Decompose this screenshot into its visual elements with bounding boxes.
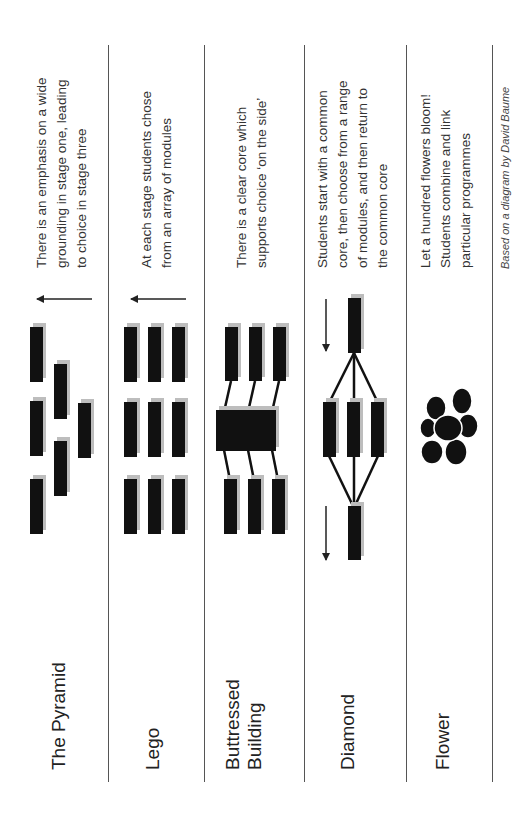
module-block bbox=[225, 327, 238, 381]
module-block bbox=[323, 402, 336, 457]
flower-icon bbox=[420, 388, 478, 465]
module-block bbox=[348, 298, 361, 353]
module-block bbox=[224, 479, 237, 534]
module-block bbox=[348, 506, 361, 560]
module-block bbox=[347, 402, 360, 457]
module-block bbox=[249, 327, 262, 381]
core-block bbox=[216, 410, 276, 451]
module-block bbox=[273, 327, 286, 381]
module-block bbox=[272, 479, 285, 534]
diagram-lines bbox=[0, 0, 528, 814]
module-block bbox=[248, 479, 261, 534]
module-block bbox=[371, 402, 384, 457]
